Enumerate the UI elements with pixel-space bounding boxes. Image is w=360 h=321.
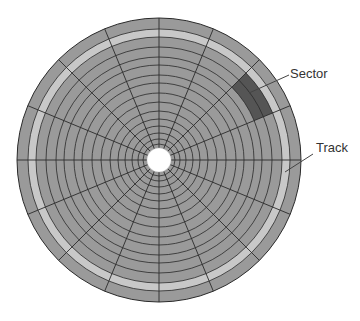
sector-label: Sector (290, 67, 328, 80)
track-label: Track (316, 141, 348, 154)
disk-diagram (0, 0, 360, 321)
spindle-hole (147, 148, 171, 172)
